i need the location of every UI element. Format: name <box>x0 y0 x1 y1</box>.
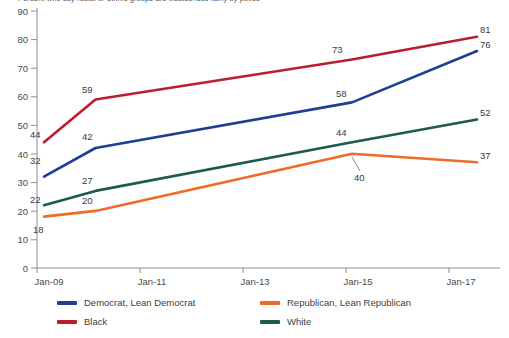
legend-item-democrat[interactable]: Democrat, Lean Democrat <box>57 298 195 308</box>
legend-item-republican[interactable]: Republican, Lean Republican <box>260 298 411 308</box>
x-tick-label: Jan-11 <box>138 276 166 287</box>
series-line-white <box>44 120 477 206</box>
x-axis-ticks <box>37 268 449 273</box>
data-label-white-2010: 27 <box>82 175 93 186</box>
data-label-dem-2017: 76 <box>480 39 491 50</box>
x-tick-label: Jan-13 <box>240 276 269 287</box>
data-label-dem-2015: 58 <box>336 88 347 99</box>
y-tick-label: 80 <box>17 34 28 45</box>
legend-swatch-republican <box>260 301 280 305</box>
data-label-rep-2009: 18 <box>33 224 44 235</box>
legend-swatch-democrat <box>57 301 77 305</box>
x-tick-label: Jan-09 <box>34 276 63 287</box>
data-label-white-2009: 22 <box>30 194 41 205</box>
data-label-rep-2015: 40 <box>354 172 365 183</box>
y-tick-label: 60 <box>17 91 28 102</box>
y-tick-label: 40 <box>17 149 28 160</box>
line-chart: Percent who say racial or ethnic groups … <box>0 0 509 338</box>
x-tick-label: Jan-17 <box>446 276 475 287</box>
data-label-black-2017: 81 <box>480 24 491 35</box>
legend-label-republican: Republican, Lean Republican <box>287 298 411 308</box>
chart-legend: Democrat, Lean Democrat Republican, Lean… <box>57 296 509 338</box>
data-label-dem-2010: 42 <box>82 131 93 142</box>
series-line-black <box>44 37 477 143</box>
legend-label-democrat: Democrat, Lean Democrat <box>84 298 195 308</box>
data-label-rep-2010: 20 <box>82 195 93 206</box>
y-tick-label: 50 <box>17 120 28 131</box>
x-tick-label: Jan-15 <box>343 276 372 287</box>
y-tick-label: 20 <box>17 206 28 217</box>
leader-line-rep-2015 <box>352 157 360 171</box>
y-tick-label: 10 <box>17 234 28 245</box>
y-tick-label: 70 <box>17 63 28 74</box>
data-label-dem-2009: 32 <box>30 155 41 166</box>
legend-swatch-black <box>57 320 77 324</box>
legend-label-white: White <box>287 317 311 327</box>
data-label-white-2017: 52 <box>480 107 491 118</box>
data-label-rep-2017: 37 <box>480 150 491 161</box>
y-tick-label: 0 <box>23 263 28 274</box>
y-tick-label: 90 <box>17 6 28 17</box>
chart-canvas: 90 80 70 60 50 40 30 20 10 0 Jan-09 Jan-… <box>0 0 509 338</box>
y-tick-label: 30 <box>17 177 28 188</box>
legend-label-black: Black <box>84 317 107 327</box>
data-label-black-2009: 44 <box>30 129 41 140</box>
legend-item-white[interactable]: White <box>260 317 311 327</box>
data-label-black-2010: 59 <box>82 84 93 95</box>
series-line-republican <box>44 154 477 217</box>
legend-item-black[interactable]: Black <box>57 317 107 327</box>
legend-swatch-white <box>260 320 280 324</box>
data-label-white-2015: 44 <box>336 127 347 138</box>
data-label-black-2015: 73 <box>332 44 343 55</box>
